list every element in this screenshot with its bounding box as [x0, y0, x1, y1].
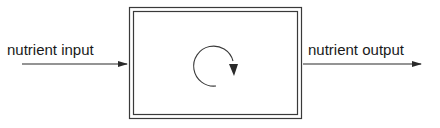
compartment-box [130, 8, 302, 119]
diagram-canvas [0, 0, 440, 128]
nutrient-compartment-diagram: nutrient input nutrient output [0, 0, 440, 128]
nutrient-output-label: nutrient output [308, 42, 404, 57]
nutrient-input-label: nutrient input [7, 42, 94, 57]
cycle-arrow-icon [194, 46, 238, 86]
